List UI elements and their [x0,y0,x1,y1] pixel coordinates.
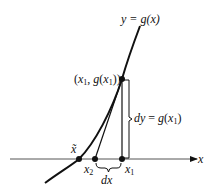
dy-label: dy = g(x1) [134,112,181,124]
point-x2 [92,156,98,162]
point-label: (x1, g(x1)) [74,73,121,85]
dx-label: dx [101,174,112,186]
diagram-graphics [0,0,215,195]
tangent-line [95,79,122,159]
x1-label: x1 [125,163,134,175]
dy-brace [124,80,132,158]
curve-label: y = g(x) [121,13,160,25]
point-xtilde [76,156,82,162]
x2-label: x2 [84,163,93,175]
x-axis-label: x [198,153,203,165]
dx-brace [96,163,121,172]
xtilde-label: x̃ [71,143,76,155]
newton-method-diagram: y = g(x) (x1, g(x1)) dy = g(x1) dx x x̃ … [0,0,215,195]
